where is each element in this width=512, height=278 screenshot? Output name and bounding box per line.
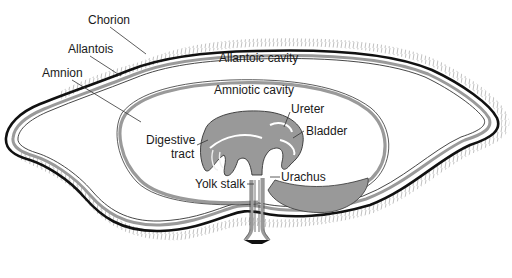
label-urachus: Urachus	[281, 170, 326, 184]
label-ureter: Ureter	[291, 102, 324, 116]
label-amnion: Amnion	[42, 66, 83, 80]
label-allantoic-cavity: Allantoic cavity	[219, 51, 298, 65]
label-chorion: Chorion	[88, 13, 130, 27]
stalk-outline	[244, 178, 270, 240]
stalk-attachment	[244, 240, 270, 244]
label-bladder: Bladder	[306, 124, 347, 138]
diagram-canvas: Chorion Allantois Amnion Allantoic cavit…	[0, 0, 512, 278]
label-allantois: Allantois	[68, 42, 113, 56]
label-amniotic-cavity: Amniotic cavity	[214, 83, 294, 97]
label-yolk-stalk: Yolk stalk	[195, 177, 246, 191]
label-digestive-tract-2: tract	[171, 147, 195, 161]
leader-chorion	[110, 27, 146, 54]
label-digestive-tract: Digestive	[146, 133, 196, 147]
